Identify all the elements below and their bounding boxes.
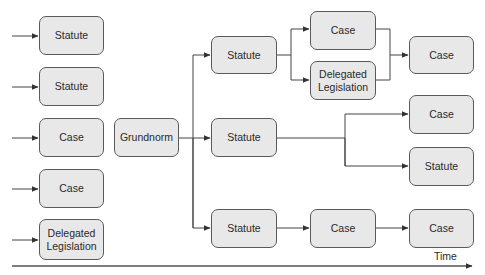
node-statute-1: Statute xyxy=(39,16,104,55)
node-mid-statute-top: Statute xyxy=(211,36,277,74)
node-delegated-legislation-1: Delegated Legislation xyxy=(39,219,104,260)
node-mid-statute-bottom: Statute xyxy=(211,209,277,248)
node-right-statute: Statute xyxy=(409,147,474,186)
legal-hierarchy-diagram: Statute Statute Case Case Delegated Legi… xyxy=(0,0,485,275)
node-col3-delegated-legislation: Delegated Legislation xyxy=(310,61,376,100)
node-col3-case-top: Case xyxy=(310,11,376,50)
node-grundnorm: Grundnorm xyxy=(114,118,179,157)
node-col3-case-bottom: Case xyxy=(310,209,376,248)
node-statute-2: Statute xyxy=(39,67,104,106)
node-right-case-bottom: Case xyxy=(409,209,474,248)
node-case-2: Case xyxy=(39,169,104,208)
node-right-case-middle: Case xyxy=(409,95,474,134)
node-mid-statute-middle: Statute xyxy=(211,118,277,157)
time-axis-label: Time xyxy=(434,250,457,262)
node-case-1: Case xyxy=(39,118,104,157)
node-right-case-top: Case xyxy=(409,36,474,74)
